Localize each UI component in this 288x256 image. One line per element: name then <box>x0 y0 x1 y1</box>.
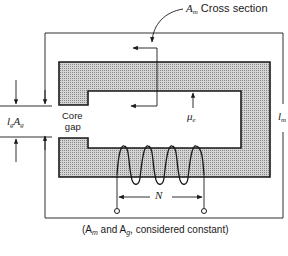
caption: (Am and Ag, considered constant) <box>82 224 229 238</box>
gap-area-subscript: g <box>20 121 24 129</box>
cross-section-symbol: A <box>186 2 193 14</box>
cross-section-text: Cross section <box>201 2 268 14</box>
core-gap-line2: gap <box>63 121 83 132</box>
caption-start: (A <box>82 224 92 235</box>
cross-section-label: Am Cross section <box>186 3 268 18</box>
cross-section-leader <box>152 9 183 42</box>
core-gap-line1: Core <box>62 110 83 121</box>
caption-end: , considered constant) <box>130 224 228 235</box>
terminal-right <box>202 209 207 214</box>
permeability-subscript: e <box>193 116 196 124</box>
gap-length-area-label: lgAg <box>7 116 24 131</box>
permeability-label: μe <box>187 111 196 126</box>
core-gap-label: Core gap <box>62 110 83 132</box>
path-length-subscript: m <box>281 116 286 124</box>
cross-section-subscript: m <box>193 8 198 16</box>
turns-label: N <box>155 190 162 201</box>
magnetic-core-diagram <box>0 0 288 256</box>
magnetic-core <box>59 62 270 177</box>
turns-symbol: N <box>155 189 162 201</box>
caption-middle: and A <box>98 224 126 235</box>
path-length-label: lm <box>278 111 286 126</box>
terminal-left <box>115 209 120 214</box>
